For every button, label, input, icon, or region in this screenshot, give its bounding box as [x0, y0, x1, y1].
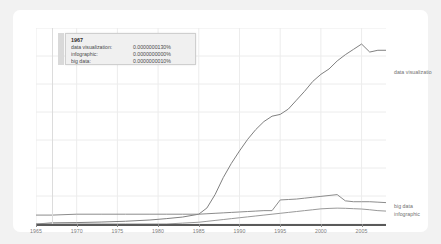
x-tick	[117, 224, 118, 227]
tooltip-series-value: 0.0000000000%	[133, 51, 171, 58]
x-tick	[239, 224, 240, 227]
x-tick-label: 2005	[356, 228, 368, 234]
x-tick	[362, 224, 363, 227]
tooltip-series-value: 0.0000000130%	[133, 44, 171, 51]
x-tick	[280, 224, 281, 227]
tooltip-series-name: infographic:	[71, 51, 133, 58]
series-label-infographic[interactable]: infographic	[394, 211, 420, 217]
tooltip-anchor	[58, 33, 64, 65]
x-tick-label: 1980	[152, 228, 164, 234]
tooltip-series-value: 0.0000000010%	[133, 58, 171, 65]
x-axis-line	[36, 224, 386, 226]
x-tick-label: 1995	[274, 228, 286, 234]
series-line-infographic	[36, 208, 386, 224]
tooltip-series-name: big data:	[71, 58, 133, 65]
tooltip-row: infographic: 0.0000000000%	[71, 51, 191, 58]
series-line-big-data	[36, 195, 386, 215]
x-tick	[321, 224, 322, 227]
hover-guide-line	[52, 28, 53, 224]
chart-card: 196519701975198019851990199520002005 196…	[13, 10, 428, 232]
x-tick	[77, 224, 78, 227]
hover-tooltip: 1967 data visualization: 0.0000000130% i…	[65, 33, 196, 65]
x-tick-label: 1975	[111, 228, 123, 234]
x-tick-label: 2000	[315, 228, 327, 234]
chart-screenshot: 196519701975198019851990199520002005 196…	[0, 0, 441, 244]
tooltip-year: 1967	[71, 37, 191, 43]
tooltip-row: big data: 0.0000000010%	[71, 58, 191, 65]
series-label-data-visualization[interactable]: data visualizatio	[394, 69, 432, 75]
series-label-big-data[interactable]: big data	[394, 203, 413, 209]
tooltip-series-name: data visualization:	[71, 44, 133, 51]
x-tick-label: 1965	[30, 228, 42, 234]
x-tick	[199, 224, 200, 227]
series-line-data-visualization	[36, 44, 386, 224]
tooltip-row: data visualization: 0.0000000130%	[71, 44, 191, 51]
x-tick-label: 1990	[234, 228, 246, 234]
x-tick-label: 1970	[71, 228, 83, 234]
x-tick-label: 1985	[193, 228, 205, 234]
x-tick	[36, 224, 37, 227]
x-tick	[158, 224, 159, 227]
